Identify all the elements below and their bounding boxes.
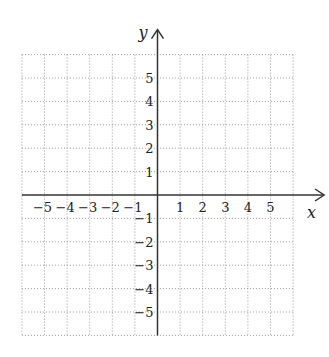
x-axis-label: x [307,203,316,222]
y-tick-label: 4 [145,94,153,109]
x-tick-label: −5 [33,200,52,215]
x-tick-label: 2 [199,200,207,215]
x-tick-label: 4 [244,200,252,215]
x-tick-label: 1 [176,200,184,215]
y-tick-label: 5 [145,71,153,86]
x-tick-label: −4 [56,200,75,215]
y-tick-label: 3 [145,118,153,133]
x-tick-label: −3 [78,200,97,215]
y-axis-label: y [138,23,149,42]
y-tick-label: −4 [134,282,153,297]
y-tick-label: −3 [134,258,153,273]
y-tick-label: −1 [134,211,153,226]
y-tick-label: 2 [145,141,153,156]
y-tick-label: 1 [145,165,153,180]
x-tick-label: −2 [101,200,120,215]
x-tick-label: 5 [266,200,274,215]
y-tick-label: −5 [134,305,153,320]
x-tick-label: 3 [221,200,229,215]
y-tick-label: −2 [134,235,153,250]
coordinate-plane: xy−5−4−3−2−11234554321−1−2−3−4−5 [0,0,329,357]
